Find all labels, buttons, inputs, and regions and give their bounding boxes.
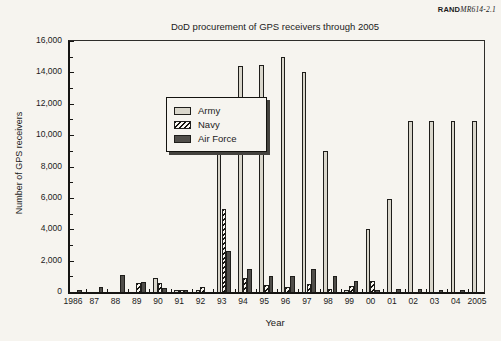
x-axis-tick <box>213 289 214 292</box>
x-axis-tick <box>192 289 193 292</box>
x-axis-tick <box>86 289 87 292</box>
x-axis-tick <box>426 289 427 292</box>
bar-2005-army <box>472 121 477 292</box>
legend: Army Navy Air Force <box>166 97 267 152</box>
bar-1986-af <box>77 290 82 292</box>
x-axis-tick <box>277 289 278 292</box>
legend-label-army: Army <box>198 105 220 116</box>
bar-02-army <box>408 121 413 292</box>
y-tick-label-6,000: 6,000 <box>0 192 62 202</box>
x-axis-tick <box>447 289 448 292</box>
bar-01-af <box>396 289 401 292</box>
y-axis-tick <box>70 72 74 73</box>
legend-label-air-force: Air Force <box>198 133 237 144</box>
bar-95-af <box>269 276 274 292</box>
bar-03-army <box>429 121 434 292</box>
bar-97-army <box>302 72 307 292</box>
x-axis-tick <box>383 289 384 292</box>
y-tick-label-4,000: 4,000 <box>0 223 62 233</box>
y-tick-label-10,000: 10,000 <box>0 129 62 139</box>
legend-item-navy: Navy <box>174 119 260 130</box>
x-tick-label-2005: 2005 <box>464 296 490 306</box>
figure: RANDMR614-2.1 DoD procurement of GPS rec… <box>0 0 501 341</box>
bar-98-af <box>333 276 338 293</box>
air-force-swatch-icon <box>174 135 191 143</box>
x-axis-tick <box>362 289 363 292</box>
y-axis-minor-tick <box>70 245 73 246</box>
army-swatch-icon <box>174 107 191 115</box>
y-axis-tick <box>70 198 74 199</box>
bar-04-af <box>460 290 465 292</box>
bar-00-af <box>375 290 380 292</box>
y-axis-minor-tick <box>70 119 73 120</box>
y-tick-label-8,000: 8,000 <box>0 161 62 171</box>
plot-area: Army Navy Air Force <box>68 40 485 294</box>
bar-99-af <box>354 281 359 292</box>
x-axis-tick <box>320 289 321 292</box>
y-axis-minor-tick <box>70 276 73 277</box>
navy-swatch-icon <box>174 121 191 129</box>
x-axis-tick <box>107 289 108 292</box>
y-axis-minor-tick <box>70 214 73 215</box>
y-tick-label-12,000: 12,000 <box>0 98 62 108</box>
y-tick-label-0: 0 <box>0 286 62 296</box>
y-axis-tick <box>70 41 74 42</box>
y-tick-label-14,000: 14,000 <box>0 66 62 76</box>
bar-89-af <box>141 282 146 292</box>
x-axis-tick <box>298 289 299 292</box>
figure-source-label: RANDMR614-2.1 <box>438 5 496 14</box>
legend-label-navy: Navy <box>198 119 220 130</box>
x-axis-tick <box>235 289 236 292</box>
x-axis-tick <box>171 289 172 292</box>
bar-96-army <box>281 57 286 292</box>
y-tick-label-16,000: 16,000 <box>0 35 62 45</box>
bar-97-af <box>311 269 316 293</box>
y-axis-minor-tick <box>70 151 73 152</box>
bar-03-af <box>439 290 444 292</box>
bar-02-af <box>418 289 423 292</box>
bar-94-af <box>247 269 252 293</box>
bar-98-army <box>323 151 328 292</box>
x-axis-tick <box>468 289 469 292</box>
x-axis-tick <box>149 289 150 292</box>
bar-01-army <box>387 199 392 292</box>
y-tick-label-2,000: 2,000 <box>0 255 62 265</box>
y-axis-tick <box>70 261 74 262</box>
bar-96-af <box>290 276 295 292</box>
chart-title: DoD procurement of GPS receivers through… <box>68 21 482 32</box>
legend-item-air-force: Air Force <box>174 133 260 144</box>
y-axis-tick <box>70 167 74 168</box>
bar-92-navy <box>200 287 205 292</box>
y-axis-minor-tick <box>70 182 73 183</box>
x-axis-tick <box>341 289 342 292</box>
y-axis-minor-tick <box>70 57 73 58</box>
y-axis-tick <box>70 104 74 105</box>
bar-04-army <box>451 121 456 292</box>
bar-93-af <box>226 251 231 292</box>
document-id: MR614-2.1 <box>460 5 496 14</box>
y-axis-minor-tick <box>70 88 73 89</box>
x-axis-tick <box>128 289 129 292</box>
y-axis-tick <box>70 135 74 136</box>
legend-item-army: Army <box>174 105 260 116</box>
bar-88-af <box>120 275 125 292</box>
x-axis-title: Year <box>68 317 482 328</box>
bar-91-af <box>184 290 189 292</box>
y-axis-tick <box>70 229 74 230</box>
x-axis-tick <box>405 289 406 292</box>
bar-87-af <box>99 287 104 292</box>
rand-logo-text: RAND <box>438 5 460 14</box>
x-axis-tick <box>256 289 257 292</box>
bar-90-af <box>162 288 167 292</box>
